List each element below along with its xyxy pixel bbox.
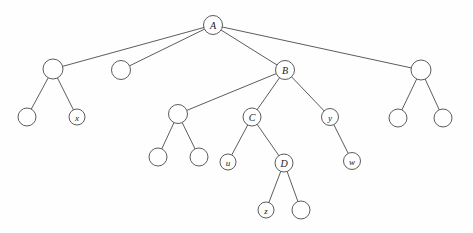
tree-node-D: D	[275, 154, 293, 172]
tree-node-unlabeled-n1	[43, 59, 63, 79]
tree-node-unlabeled-n9	[190, 148, 208, 166]
tree-edge-B-C	[257, 78, 279, 110]
tree-edge-C-D	[257, 124, 279, 155]
tree-node-unlabeled-n3	[411, 60, 431, 80]
node-circle-n8	[149, 148, 167, 166]
tree-node-w: w	[344, 153, 361, 170]
tree-node-unlabeled-n10	[292, 201, 310, 219]
tree-node-unlabeled-n7	[434, 109, 452, 127]
node-label-z: z	[263, 206, 268, 216]
tree-edge-n5-n9	[182, 123, 195, 149]
node-circle-n6	[389, 109, 407, 127]
tree-node-unlabeled-n4	[18, 108, 36, 126]
tree-edge-D-z	[269, 171, 281, 202]
node-circle-n3	[411, 60, 431, 80]
tree-node-unlabeled-n8	[149, 148, 167, 166]
node-label-B: B	[282, 65, 288, 76]
tree-node-unlabeled-n6	[389, 109, 407, 127]
node-circle-n9	[190, 148, 208, 166]
node-label-D: D	[279, 158, 288, 169]
node-circle-n1	[43, 59, 63, 79]
tree-edge-A-n2	[130, 29, 205, 66]
tree-node-u: u	[220, 154, 236, 170]
tree-edge-C-u	[232, 125, 248, 155]
tree-diagram-canvas: ABxCyuDwz	[0, 0, 473, 233]
tree-diagram: ABxCyuDwz	[0, 0, 473, 233]
node-label-y: y	[327, 113, 332, 123]
tree-edge-B-n5	[187, 74, 276, 111]
node-label-w: w	[349, 157, 355, 167]
tree-edges-group	[31, 27, 439, 203]
tree-node-B: B	[276, 61, 295, 80]
tree-node-C: C	[243, 108, 261, 126]
tree-edge-n5-n8	[162, 123, 174, 149]
tree-edge-y-w	[334, 125, 348, 154]
tree-edge-n3-n6	[402, 79, 417, 110]
tree-edge-D-n10	[287, 171, 298, 201]
node-circle-n4	[18, 108, 36, 126]
tree-edge-n3-n7	[425, 79, 439, 110]
tree-node-x: x	[69, 109, 85, 125]
tree-node-A: A	[204, 16, 223, 35]
tree-node-unlabeled-n5	[169, 105, 188, 124]
node-circle-n10	[292, 201, 310, 219]
node-label-u: u	[226, 158, 231, 168]
tree-node-unlabeled-n2	[112, 61, 131, 80]
node-circle-n7	[434, 109, 452, 127]
tree-nodes-group: ABxCyuDwz	[18, 16, 452, 220]
node-label-x: x	[74, 113, 79, 123]
node-label-A: A	[209, 20, 217, 31]
tree-edge-B-y	[292, 77, 325, 111]
tree-node-z: z	[258, 202, 274, 218]
tree-edge-n1-x	[57, 78, 73, 110]
tree-edge-A-B	[221, 30, 277, 65]
tree-edge-A-n3	[222, 27, 411, 68]
tree-edge-n1-n4	[31, 78, 48, 109]
node-label-C: C	[249, 112, 256, 123]
node-circle-n2	[112, 61, 131, 80]
tree-edge-A-n1	[63, 28, 204, 67]
node-circle-n5	[169, 105, 188, 124]
tree-node-y: y	[322, 109, 339, 126]
